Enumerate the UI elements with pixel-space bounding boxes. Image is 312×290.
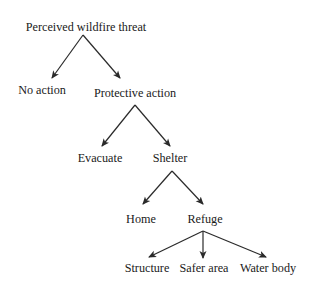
arrow-threat-to-protective-action — [83, 35, 120, 78]
node-refuge: Refuge — [187, 212, 222, 226]
node-protective-action: Protective action — [94, 86, 176, 100]
arrow-refuge-to-water-body — [203, 231, 266, 257]
node-home: Home — [126, 212, 156, 226]
node-no-action: No action — [18, 83, 66, 97]
arrow-shelter-to-home — [143, 171, 172, 204]
arrow-protective-to-evacuate — [102, 105, 135, 146]
node-safer-area: Safer area — [179, 261, 228, 275]
node-evacuate: Evacuate — [78, 151, 123, 165]
arrow-shelter-to-refuge — [172, 171, 203, 204]
node-water-body: Water body — [240, 261, 296, 275]
arrow-threat-to-no-action — [52, 35, 83, 78]
node-structure: Structure — [125, 261, 170, 275]
node-perceived-wildfire-threat: Perceived wildfire threat — [26, 20, 146, 34]
arrow-refuge-to-structure — [149, 231, 203, 257]
arrow-protective-to-shelter — [135, 105, 170, 146]
node-shelter: Shelter — [153, 151, 188, 165]
tree-edges — [0, 0, 312, 290]
decision-tree-diagram: Perceived wildfire threat No action Prot… — [0, 0, 312, 290]
